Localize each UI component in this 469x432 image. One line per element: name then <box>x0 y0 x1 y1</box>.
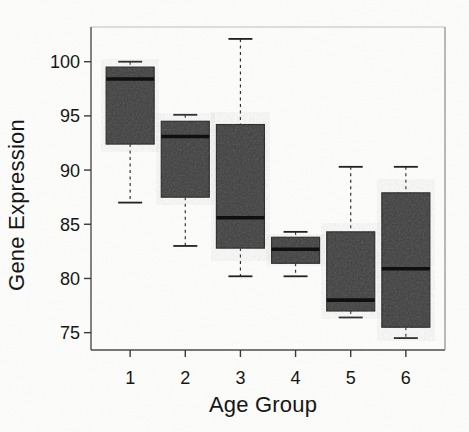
box-grain-2 <box>161 121 209 197</box>
boxplot-chart: 7580859095100123456 Age Group Gene Expre… <box>0 0 469 432</box>
y-tick-label: 75 <box>60 323 80 343</box>
y-tick-label: 85 <box>60 215 80 235</box>
x-tick-label: 3 <box>235 368 245 388</box>
y-tick-label: 80 <box>60 269 80 289</box>
x-tick-label: 2 <box>180 368 190 388</box>
x-axis-title: Age Group <box>209 392 317 417</box>
box-grain-6 <box>382 193 430 327</box>
y-axis-title: Gene Expression <box>4 119 29 291</box>
x-tick-label: 1 <box>125 368 135 388</box>
x-tick-label: 4 <box>291 368 301 388</box>
boxplot-figure: 7580859095100123456 Age Group Gene Expre… <box>0 0 469 432</box>
box-grain-3 <box>216 125 264 249</box>
x-tick-label: 6 <box>401 368 411 388</box>
y-tick-label: 90 <box>60 161 80 181</box>
y-tick-label: 95 <box>60 106 80 126</box>
x-tick-label: 5 <box>346 368 356 388</box>
y-tick-label: 100 <box>50 52 80 72</box>
